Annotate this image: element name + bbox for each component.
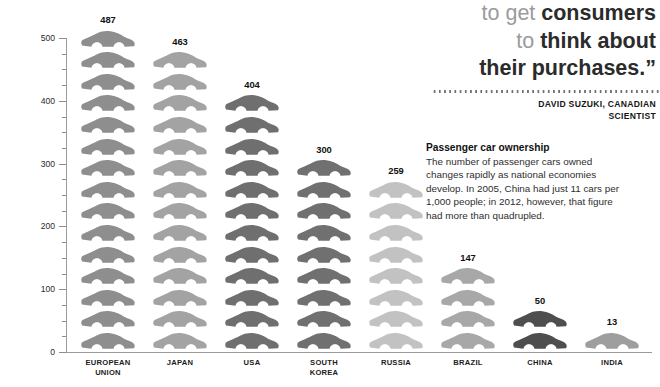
car-icon xyxy=(151,245,209,266)
quote-line-2-light: to xyxy=(516,29,540,53)
bar-value-label: 463 xyxy=(172,36,188,47)
category-label: SOUTH KOREA xyxy=(306,358,342,377)
car-icon xyxy=(79,93,137,114)
y-axis-ticks: 0100200300400500 xyxy=(59,0,66,387)
car-icon xyxy=(79,72,137,93)
car-icon xyxy=(223,137,281,158)
car-icon xyxy=(367,201,425,222)
car-icon xyxy=(295,180,353,201)
car-icon xyxy=(223,266,281,287)
y-axis-label-container: PASSENGER CAR DENSITY PER 1,000 INHABITA… xyxy=(0,0,24,350)
y-tick-label: 200 xyxy=(41,221,55,231)
pictogram-column: 147BRAZIL xyxy=(432,266,504,352)
category-label: INDIA xyxy=(601,358,623,368)
category-label: BRAZIL xyxy=(453,358,482,368)
pictogram-column: 463JAPAN xyxy=(144,50,216,352)
car-icon xyxy=(295,223,353,244)
car-icon xyxy=(439,331,497,352)
car-icon xyxy=(223,288,281,309)
quote-line-1: to get consumers xyxy=(424,0,656,28)
bar-value-label: 13 xyxy=(607,316,617,327)
car-icon xyxy=(223,158,281,179)
car-icon xyxy=(295,288,353,309)
car-icon xyxy=(295,331,353,352)
car-icon xyxy=(223,180,281,201)
quote-attribution: DAVID SUZUKI, CANADIAN SCIENTIST xyxy=(424,99,660,122)
car-icon xyxy=(439,266,497,287)
car-icon xyxy=(511,309,569,330)
body-block: Passenger car ownership The number of pa… xyxy=(424,142,630,222)
infographic-chart: PASSENGER CAR DENSITY PER 1,000 INHABITA… xyxy=(0,0,660,387)
y-tick-label: 400 xyxy=(41,96,55,106)
car-icon xyxy=(151,223,209,244)
y-tick-major xyxy=(59,352,66,353)
y-tick-label: 100 xyxy=(41,284,55,294)
car-icon xyxy=(367,223,425,244)
car-icon xyxy=(79,50,137,71)
pictogram-column: 50CHINA xyxy=(504,309,576,352)
pictogram-column: 300SOUTH KOREA xyxy=(288,158,360,352)
car-icon xyxy=(511,331,569,352)
car-icon xyxy=(151,180,209,201)
car-icon xyxy=(151,309,209,330)
car-icon xyxy=(367,288,425,309)
quote-line-3-bold: their purchases.” xyxy=(479,56,656,80)
car-icon xyxy=(151,331,209,352)
car-icon xyxy=(79,158,137,179)
y-tick-label: 0 xyxy=(50,347,55,357)
car-icon xyxy=(439,309,497,330)
car-icon xyxy=(295,309,353,330)
car-icon xyxy=(223,309,281,330)
y-tick-major xyxy=(59,101,66,102)
pull-quote: to get consumers to think about their pu… xyxy=(424,0,660,83)
y-tick-label: 500 xyxy=(41,33,55,43)
bar-value-label: 487 xyxy=(100,14,116,25)
car-icon xyxy=(223,93,281,114)
y-axis-label: PASSENGER CAR DENSITY PER 1,000 INHABITA… xyxy=(14,0,28,34)
y-tick-major xyxy=(59,226,66,227)
bar-value-label: 404 xyxy=(244,79,260,90)
category-label: USA xyxy=(244,358,261,368)
y-tick-major xyxy=(59,38,66,39)
car-icon xyxy=(151,288,209,309)
quote-line-1-light: to get xyxy=(482,1,542,25)
car-icon xyxy=(367,309,425,330)
car-icon xyxy=(583,331,641,352)
car-icon xyxy=(79,331,137,352)
quote-line-3: their purchases.” xyxy=(424,55,656,83)
car-icon xyxy=(79,137,137,158)
car-icon xyxy=(79,180,137,201)
car-icon xyxy=(79,115,137,136)
side-panel: to get consumers to think about their pu… xyxy=(424,0,660,222)
quote-line-1-bold: consumers xyxy=(541,1,656,25)
car-icon xyxy=(151,158,209,179)
body-heading: Passenger car ownership xyxy=(426,142,630,153)
car-icon xyxy=(151,137,209,158)
car-icon xyxy=(223,223,281,244)
car-icon xyxy=(79,288,137,309)
car-icon xyxy=(367,266,425,287)
bar-value-label: 50 xyxy=(535,295,545,306)
car-icon xyxy=(151,72,209,93)
car-icon xyxy=(295,245,353,266)
bar-value-label: 300 xyxy=(316,144,332,155)
category-label: CHINA xyxy=(527,358,552,368)
quote-line-2: to think about xyxy=(424,28,656,56)
car-icon xyxy=(151,201,209,222)
car-icon xyxy=(295,158,353,179)
car-icon xyxy=(151,115,209,136)
pictogram-column: 13INDIA xyxy=(576,330,648,352)
car-icon xyxy=(79,266,137,287)
pictogram-column: 259RUSSIA xyxy=(360,179,432,352)
pictogram-column: 404USA xyxy=(216,93,288,352)
car-icon xyxy=(151,93,209,114)
car-icon xyxy=(79,201,137,222)
car-icon xyxy=(151,266,209,287)
car-icon xyxy=(367,180,425,201)
divider-dotted xyxy=(432,90,660,93)
category-label: EUROPEAN UNION xyxy=(85,358,130,377)
car-icon xyxy=(223,115,281,136)
car-icon xyxy=(367,245,425,266)
car-icon xyxy=(367,331,425,352)
car-icon xyxy=(79,29,137,50)
